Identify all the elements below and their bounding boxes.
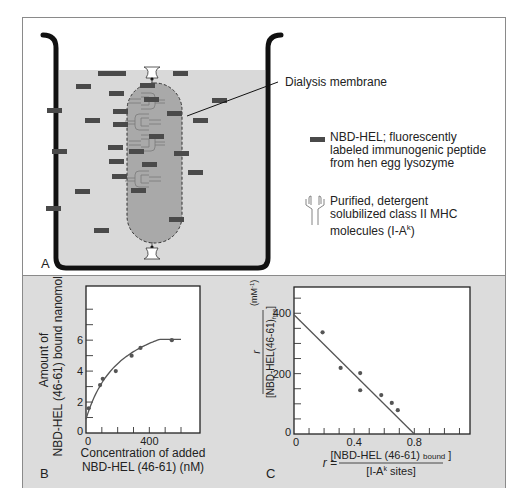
dialysis-membrane-label: Dialysis membrane [285, 76, 387, 89]
legend-mhc-line-3: molecules (I-Ak) [330, 221, 457, 238]
peptide-rect [46, 206, 61, 211]
peptide-rect [75, 189, 90, 194]
chart-c-scatchard-plot: 00.40.80200400r[NBD-HEL(46-61)free](mM-1… [249, 280, 470, 477]
x-axis-label-line-2: NBD-HEL (46-61) (nM) [82, 460, 204, 474]
peptide-rect [173, 71, 188, 76]
peptide-rect [108, 145, 123, 150]
x-tick-label: 0.4 [347, 436, 362, 448]
x-label-numerator: [NBD-HEL (46-61) bound ] [331, 449, 452, 461]
data-point [390, 401, 394, 405]
y-tick-label: 0 [77, 425, 83, 437]
peptide-rect-icon [310, 137, 325, 142]
peptide-rect [112, 174, 127, 179]
peptide-rect [98, 71, 113, 76]
peptide-rect [193, 118, 208, 123]
y-axis-label-line-1: Amount of [37, 332, 51, 387]
peptide-rect [149, 134, 164, 139]
data-point [87, 406, 91, 410]
y-label-numerator: r [250, 349, 262, 354]
panel-c-letter: C [266, 466, 275, 481]
y-axis-label: r[NBD-HEL(46-61)free](mM-1) [249, 280, 277, 398]
data-point [358, 371, 362, 375]
x-axis-label: r =[NBD-HEL (46-61) bound ][I-Ak sites] [323, 449, 452, 477]
peptide-rect [144, 97, 159, 102]
y-axis-label-line-2: NBD-HEL (46-61) bound nanomoles [51, 276, 65, 457]
peptide-rect [131, 188, 146, 193]
legend-peptide-text: NBD-HEL; fluorescently labeled immunogen… [330, 131, 486, 170]
chart-b-binding-curve: 04000246Amount ofNBD-HEL (46-61) bound n… [37, 276, 205, 474]
peptide-rect [76, 84, 91, 89]
data-point [339, 366, 343, 370]
peptide-rect [140, 83, 155, 88]
data-point [379, 393, 383, 397]
data-point [138, 346, 142, 350]
mhc-molecule-icon [306, 196, 324, 225]
figure-frame: Dialysis membrane NBD-HEL; fluorescently… [22, 17, 506, 488]
y-tick-label: 0 [285, 426, 291, 438]
peptide-rect [167, 111, 182, 116]
peptide-rect [142, 162, 157, 167]
data-point [101, 377, 105, 381]
panel-a-letter: A [41, 256, 50, 271]
panel-bc-charts: 04000246Amount ofNBD-HEL (46-61) bound n… [23, 275, 505, 488]
x-axis-label-line-1: Concentration of added [81, 446, 206, 460]
y-tick-label: 6 [77, 334, 83, 346]
peptide-rect [111, 71, 126, 76]
peptide-rect [109, 159, 124, 164]
data-point [320, 330, 324, 334]
plot-area [86, 286, 200, 433]
peptide-rect [52, 149, 67, 154]
legend-mhc-line-2: solubilized class II MHC [330, 208, 457, 221]
y-label-units: (mM-1) [249, 280, 259, 306]
panel-b-letter: B [40, 466, 49, 481]
peptide-rect [174, 151, 189, 156]
peptide-rect [85, 118, 100, 123]
peptide-rect [47, 108, 62, 113]
legend-mhc-text: Purified, detergent solubilized class II… [330, 195, 457, 238]
peptide-rect [109, 91, 124, 96]
peptide-rect [129, 149, 144, 154]
x-label-denominator: [I-Ak sites] [366, 465, 415, 477]
peptide-rect [113, 122, 128, 127]
data-point [358, 388, 362, 392]
peptide-rect [188, 170, 203, 175]
y-label-denominator: [NBD-HEL(46-61)free] [265, 306, 277, 398]
y-tick-label: 2 [77, 396, 83, 408]
data-point [98, 383, 102, 387]
plot-area [294, 287, 470, 434]
peptide-rect [94, 228, 109, 233]
x-tick-label: 0.8 [407, 436, 422, 448]
data-point [130, 354, 134, 358]
panel-a-dialysis-diagram: Dialysis membrane NBD-HEL; fluorescently… [23, 18, 505, 275]
data-point [396, 408, 400, 412]
charts-svg: 04000246Amount ofNBD-HEL (46-61) bound n… [23, 276, 505, 488]
data-point [114, 369, 118, 373]
peptide-rect [113, 109, 128, 114]
legend-peptide-line-3: from hen egg lysozyme [330, 157, 486, 170]
data-point [170, 338, 174, 342]
y-tick-label: 4 [77, 365, 83, 377]
x-tick-label: 0 [293, 436, 299, 448]
peptide-rect [169, 217, 184, 222]
